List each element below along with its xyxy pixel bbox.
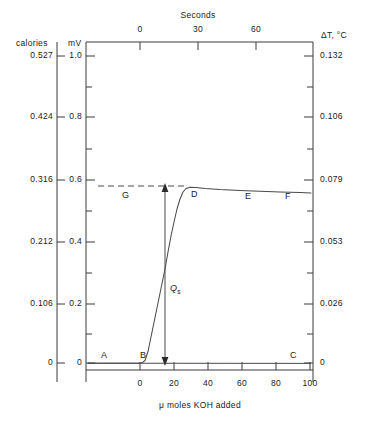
point-label-A: A [101, 350, 107, 360]
mv-tick-label-5: 1.0 [52, 50, 82, 60]
point-label-C: C [290, 350, 297, 360]
delta-t-tick-label-5: 0.132 [320, 50, 343, 60]
seconds-tick-label-1: 30 [183, 24, 213, 34]
qs-subscript: s [177, 288, 181, 295]
qs-arrow [162, 183, 169, 366]
calories-axis [57, 42, 65, 382]
x-tick-label-0: 0 [125, 378, 155, 388]
seconds-axis-title: Seconds [170, 10, 226, 20]
delta-t-tick-label-3: 0.079 [320, 174, 343, 184]
mv-axis-title: mV [68, 38, 81, 48]
delta-t-tick-label-1: 0.026 [320, 298, 343, 308]
data-series-thermogram [88, 187, 311, 363]
delta-t-tick-label-0: 0 [320, 357, 325, 367]
point-label-D: D [191, 189, 198, 199]
calories-tick-label-3: 0.316 [3, 174, 53, 184]
calories-tick-label-1: 0.106 [3, 298, 53, 308]
left-axis-ticks [86, 56, 95, 363]
mv-tick-label-1: 0.2 [52, 298, 82, 308]
point-label-E: E [245, 191, 251, 201]
plot-frame [86, 42, 313, 382]
x-tick-label-5: 100 [295, 378, 325, 388]
x-axis-title: μ moles KOH added [140, 400, 260, 410]
seconds-tick-label-0: 0 [125, 24, 155, 34]
calories-axis-title: calories [16, 38, 48, 48]
right-axis-ticks [304, 56, 313, 363]
calories-tick-label-2: 0.212 [3, 236, 53, 246]
mv-tick-label-0: 0 [52, 357, 82, 367]
calories-tick-label-0: 0 [3, 357, 53, 367]
point-label-G: G [122, 190, 129, 200]
delta-t-tick-label-2: 0.053 [320, 236, 343, 246]
mv-tick-label-4: 0.8 [52, 111, 82, 121]
x-tick-label-1: 20 [159, 378, 189, 388]
x-tick-label-4: 80 [261, 378, 291, 388]
mv-tick-label-3: 0.6 [52, 174, 82, 184]
calories-tick-label-5: 0.527 [3, 50, 53, 60]
thermogram-figure: calories mV Seconds ΔT, °C μ moles KOH a… [0, 0, 376, 426]
calories-tick-label-4: 0.424 [3, 111, 53, 121]
seconds-tick-label-2: 60 [241, 24, 271, 34]
x-tick-label-2: 40 [193, 378, 223, 388]
x-tick-label-3: 60 [227, 378, 257, 388]
point-label-F: F [285, 191, 291, 201]
top-axis-ticks [140, 42, 256, 50]
point-label-B: B [140, 350, 146, 360]
delta-t-axis-title: ΔT, °C [321, 30, 347, 40]
delta-t-tick-label-4: 0.106 [320, 111, 343, 121]
qs-annotation-label: Qs [170, 283, 181, 295]
mv-tick-label-2: 0.4 [52, 236, 82, 246]
